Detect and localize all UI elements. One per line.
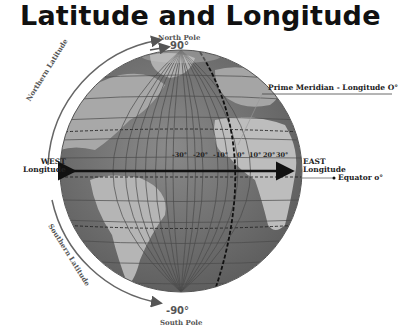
south-pole-label: South Pole: [160, 318, 202, 327]
tick-label: 10°: [249, 151, 261, 159]
prime-meridian-label: Prime Meridian - Longitude O°: [268, 83, 398, 92]
tick-label: 0°: [237, 151, 245, 159]
west-label: WEST Longitude: [23, 158, 66, 174]
south-degree-label: -90°: [166, 305, 189, 316]
tick-label: -30°: [172, 151, 187, 159]
east-label: EAST Longitude: [303, 158, 346, 174]
tick-label: -20°: [193, 151, 208, 159]
tick-label: 20°: [263, 151, 275, 159]
west-label-line2: Longitude: [23, 166, 66, 174]
tick-label: 30°: [276, 151, 288, 159]
equator-label: Equator o°: [338, 173, 383, 182]
tick-label: -10°: [213, 151, 228, 159]
north-degree-label: 90°: [170, 40, 189, 51]
